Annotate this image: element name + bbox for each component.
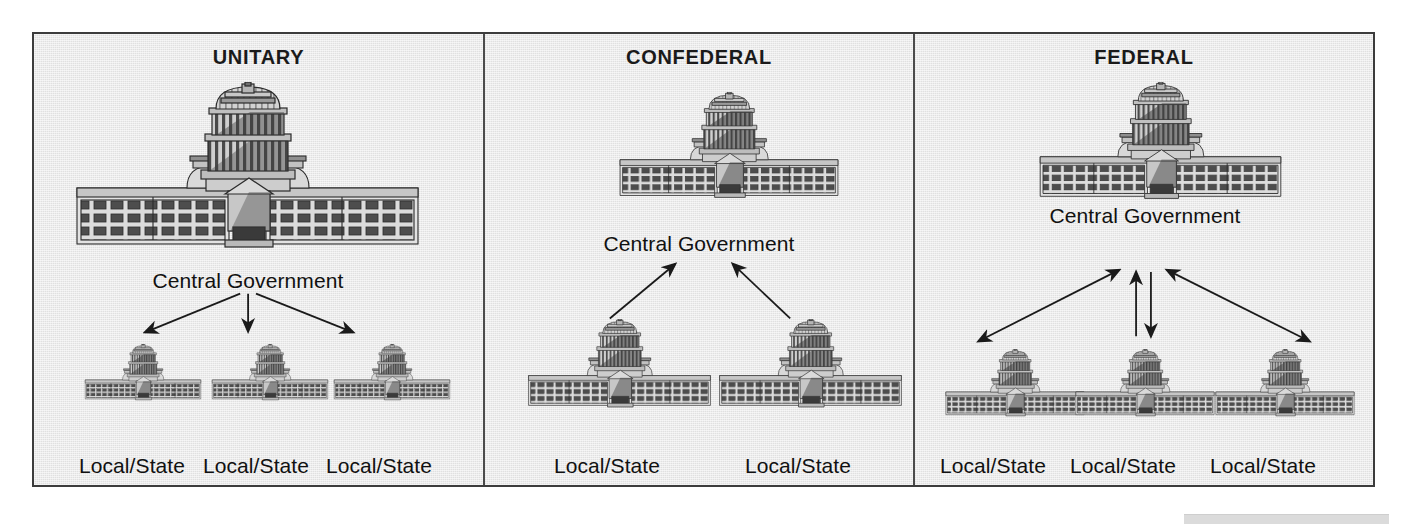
capitol-local-unitary-1 [84,344,202,405]
capitol-local-confederal-1 [527,319,712,415]
panel-title-confederal: CONFEDERAL [485,46,913,69]
central-government-label-federal: Central Government [1015,204,1275,228]
panel-federal: FEDERAL [915,34,1373,485]
capitol-local-federal-2 [1075,349,1215,422]
panel-title-unitary: UNITARY [34,46,483,69]
local-state-label-federal-3: Local/State [1193,454,1333,478]
central-government-label-unitary: Central Government [118,269,378,293]
local-state-label-federal-1: Local/State [923,454,1063,478]
central-government-label-confederal: Central Government [569,232,829,256]
local-state-label-unitary-1: Local/State [62,454,202,478]
local-state-label-unitary-2: Local/State [186,454,326,478]
bottom-gray-strip [1184,514,1389,524]
capitol-central-confederal [618,92,840,207]
government-systems-figure: UNITARY [0,0,1402,532]
panel-confederal: CONFEDERAL [485,34,913,485]
panel-unitary: UNITARY [34,34,483,485]
capitol-local-federal-3 [1215,349,1355,422]
local-state-label-unitary-3: Local/State [309,454,449,478]
panel-title-federal: FEDERAL [915,46,1373,69]
capitol-central-federal [1038,82,1283,209]
capitol-central-unitary [75,82,420,262]
capitol-local-confederal-2 [718,319,903,415]
local-state-label-federal-2: Local/State [1053,454,1193,478]
local-state-label-confederal-2: Local/State [723,454,873,478]
local-state-label-confederal-1: Local/State [532,454,682,478]
capitol-local-unitary-3 [333,344,451,405]
capitol-local-unitary-2 [211,344,329,405]
capitol-local-federal-1 [945,349,1085,422]
figure-frame: UNITARY [32,32,1375,487]
